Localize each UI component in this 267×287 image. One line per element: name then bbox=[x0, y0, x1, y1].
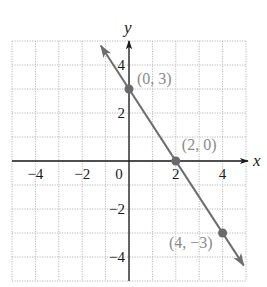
data-point bbox=[171, 157, 180, 166]
x-tick-label: 4 bbox=[219, 166, 227, 182]
x-tick-label: 0 bbox=[115, 166, 123, 182]
point-label: (2, 0) bbox=[182, 136, 217, 154]
y-tick-label: 2 bbox=[118, 105, 126, 121]
axes: xy bbox=[12, 18, 261, 281]
y-tick-label: 4 bbox=[118, 57, 126, 73]
x-tick-label: 2 bbox=[172, 166, 180, 182]
data-point bbox=[218, 229, 227, 238]
x-tick-label: −2 bbox=[74, 166, 90, 182]
y-tick-label: −4 bbox=[109, 249, 125, 265]
data-point bbox=[125, 85, 134, 94]
point-label: (0, 3) bbox=[137, 70, 172, 88]
coordinate-plane: xy −4−202442−2−4 (0, 3)(2, 0)(4, −3) bbox=[0, 0, 267, 287]
x-tick-label: −4 bbox=[27, 166, 43, 182]
x-axis-label: x bbox=[252, 151, 261, 170]
y-axis-label: y bbox=[122, 18, 132, 37]
line-segment-upper bbox=[101, 46, 172, 156]
y-tick-label: −2 bbox=[109, 201, 125, 217]
point-label: (4, −3) bbox=[169, 234, 213, 252]
